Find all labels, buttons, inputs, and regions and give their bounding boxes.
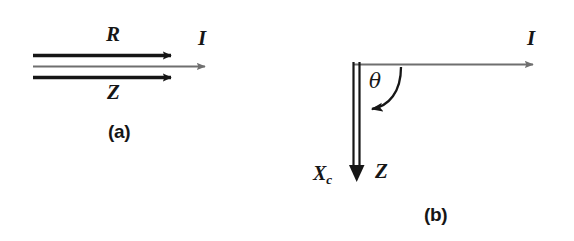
phasor-diagram-figure: R I Z (a) I θ Xc Z (b) bbox=[0, 0, 574, 241]
panel-b-arrowhead-impedance-Z bbox=[349, 165, 365, 182]
panel-b-label-theta: θ bbox=[369, 71, 381, 91]
panel-b-label-Xc: Xc bbox=[313, 163, 332, 186]
panel-a-label-I: I bbox=[198, 28, 206, 49]
diagram-canvas bbox=[0, 0, 574, 241]
panel-a-label-Z: Z bbox=[107, 82, 120, 103]
panel-b-label-Z: Z bbox=[375, 161, 388, 182]
panel-b-label-Xc-base: X bbox=[313, 162, 326, 184]
panel-a-caption: (a) bbox=[108, 122, 130, 141]
panel-a-label-R: R bbox=[106, 24, 120, 45]
panel-b-label-I: I bbox=[527, 28, 535, 49]
panel-a-group bbox=[33, 56, 205, 78]
panel-b-label-Xc-subscript: c bbox=[326, 172, 332, 187]
panel-b-caption: (b) bbox=[424, 205, 447, 224]
